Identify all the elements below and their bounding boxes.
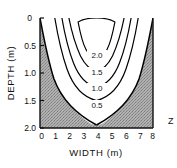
y-tick-label-0-5: 0.5: [24, 41, 36, 51]
x-tick-label-7: 7: [138, 131, 143, 141]
x-tick-label-3: 3: [82, 131, 87, 141]
contour-label-1-5: 1.5: [91, 68, 103, 77]
x-tick-label-0: 0: [39, 131, 44, 141]
x-tick-label-4: 4: [96, 131, 101, 141]
x-tick-label-6: 6: [124, 131, 129, 141]
contour-label-0-5: 0.5: [91, 101, 103, 110]
contour-plot-figure: 2.0 1.5 1.0 0.5 0 0.5 1.0 1.5 2.0 0 1 2 …: [0, 0, 177, 168]
y-tick-label-1-5: 1.5: [24, 96, 36, 106]
x-tick-label-2: 2: [67, 131, 72, 141]
x-tick-label-1: 1: [53, 131, 58, 141]
chart-svg: 2.0 1.5 1.0 0.5 0 0.5 1.0 1.5 2.0 0 1 2 …: [0, 0, 177, 168]
contour-label-2-0: 2.0: [91, 51, 103, 60]
y-axis-title: DEPTH (m): [5, 46, 16, 100]
x-tick-label-5: 5: [110, 131, 115, 141]
x-tick-label-8: 8: [150, 131, 155, 141]
y-tick-label-2-0: 2.0: [24, 123, 36, 133]
corner-annotation-z: Z: [168, 116, 174, 126]
contour-label-1-0: 1.0: [91, 84, 103, 93]
y-tick-label-0: 0: [27, 13, 32, 23]
y-tick-label-1-0: 1.0: [24, 68, 36, 78]
x-axis-title: WIDTH (m): [69, 147, 122, 158]
